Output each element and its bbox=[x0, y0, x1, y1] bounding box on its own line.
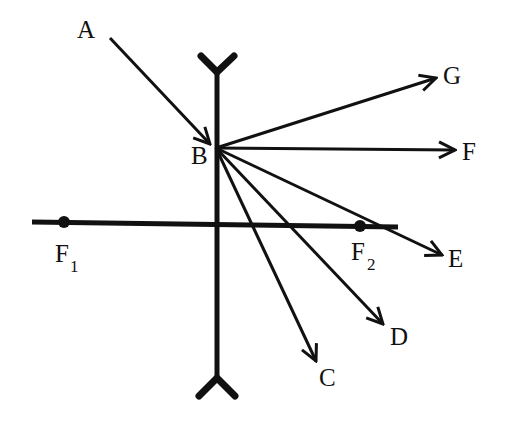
ray-b-to-c bbox=[216, 148, 316, 361]
optical-axis bbox=[32, 222, 398, 227]
label-c: C bbox=[319, 364, 336, 391]
label-e: E bbox=[448, 245, 463, 272]
focal-point-f2-dot bbox=[354, 220, 366, 232]
label-f2-base: F bbox=[351, 238, 365, 265]
focal-point-f1-dot bbox=[58, 216, 70, 228]
label-f1-base: F bbox=[55, 240, 69, 267]
label-f1-subscript: 1 bbox=[70, 257, 79, 276]
label-a: A bbox=[77, 16, 95, 43]
ray-diagram: A B G F E D C F 1 F 2 bbox=[0, 0, 506, 422]
ray-b-to-g bbox=[216, 78, 436, 148]
ray-b-to-e bbox=[216, 148, 442, 255]
label-f1: F 1 bbox=[55, 240, 79, 276]
label-g: G bbox=[443, 62, 461, 89]
label-d: D bbox=[390, 323, 408, 350]
incident-ray-a-to-b bbox=[110, 38, 210, 144]
ray-b-to-f bbox=[216, 148, 455, 150]
label-f2: F 2 bbox=[351, 238, 376, 274]
label-f: F bbox=[462, 138, 476, 165]
label-f2-subscript: 2 bbox=[367, 255, 376, 274]
lens-bottom-cap bbox=[199, 378, 235, 396]
refracted-rays bbox=[216, 78, 455, 361]
label-b: B bbox=[191, 142, 208, 169]
ray-b-to-d bbox=[216, 148, 383, 324]
lens-top-cap bbox=[201, 56, 234, 72]
